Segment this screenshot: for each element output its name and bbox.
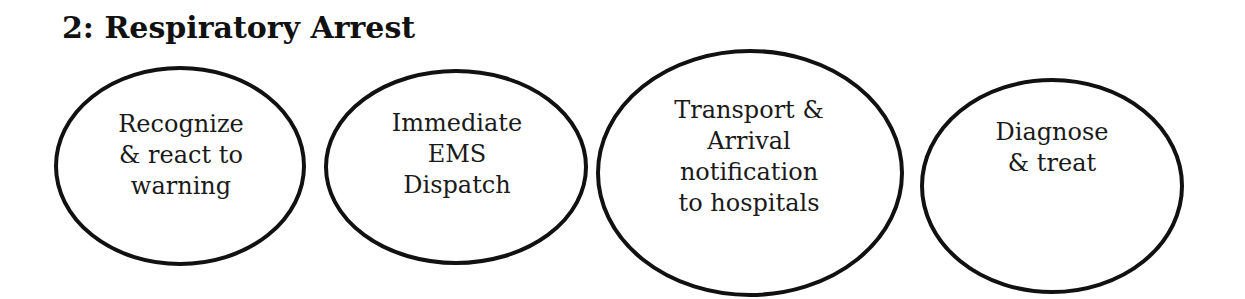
node-line: notification	[674, 157, 823, 188]
node-line: Dispatch	[392, 170, 522, 201]
node-line: Diagnose	[995, 117, 1108, 148]
node-line: to hospitals	[674, 188, 823, 219]
node-ellipse-diagnose	[922, 80, 1182, 292]
node-line: Recognize	[118, 109, 244, 140]
node-label-recognize: Recognize & react to warning	[118, 109, 244, 202]
node-label-transport: Transport & Arrival notification to hosp…	[674, 95, 823, 219]
node-line: & react to	[118, 140, 244, 171]
node-line: Immediate	[392, 108, 522, 139]
node-line: Arrival	[674, 126, 823, 157]
node-label-diagnose: Diagnose & treat	[995, 117, 1108, 179]
node-line: & treat	[995, 148, 1108, 179]
node-line: Transport &	[674, 95, 823, 126]
node-line: warning	[118, 171, 244, 202]
node-line: EMS	[392, 139, 522, 170]
node-label-dispatch: Immediate EMS Dispatch	[392, 108, 522, 201]
